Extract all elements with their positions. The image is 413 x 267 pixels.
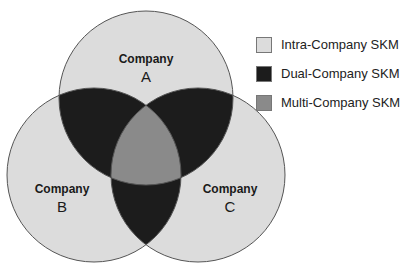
company-a-letter: A	[106, 68, 186, 85]
company-a-title: Company	[106, 52, 186, 66]
company-c-letter: C	[190, 198, 270, 215]
legend: Intra-Company SKM Dual-Company SKM Multi…	[256, 30, 400, 117]
company-b-title: Company	[22, 182, 102, 196]
swatch-intra-icon	[256, 37, 272, 53]
swatch-multi-icon	[256, 95, 272, 111]
legend-item-multi: Multi-Company SKM	[256, 88, 400, 117]
label-company-b: Company B	[22, 182, 102, 215]
swatch-dual-icon	[256, 66, 272, 82]
legend-item-dual: Dual-Company SKM	[256, 59, 400, 88]
company-b-letter: B	[22, 198, 102, 215]
label-company-c: Company C	[190, 182, 270, 215]
legend-item-intra: Intra-Company SKM	[256, 30, 400, 59]
company-c-title: Company	[190, 182, 270, 196]
label-company-a: Company A	[106, 52, 186, 85]
